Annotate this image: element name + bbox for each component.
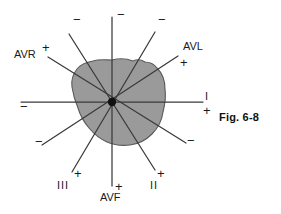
lead-label-i: I	[205, 91, 209, 102]
lead-avl-positive-sign: +	[180, 56, 188, 69]
figure-caption: Fig. 6-8	[219, 111, 259, 123]
lead-avr-negative-sign: −	[187, 134, 195, 147]
hexaxial-diagram	[0, 0, 281, 214]
lead-ii-positive-sign: +	[157, 167, 165, 180]
lead-i-negative-sign: −	[20, 100, 28, 113]
center-point	[108, 98, 116, 106]
hexaxial-reference-figure: I + − AVF + − II + − III + − AVR + − AVL…	[0, 0, 281, 214]
lead-avr-positive-sign: +	[42, 41, 50, 54]
lead-avf-negative-sign: −	[117, 8, 125, 21]
lead-i-positive-sign: +	[203, 104, 211, 117]
lead-label-ii: II	[150, 180, 158, 191]
lead-avl-negative-sign: −	[35, 135, 43, 148]
lead-label-iii: III	[57, 180, 69, 191]
lead-avf-positive-sign: +	[115, 180, 123, 193]
lead-label-avl: AVL	[183, 41, 203, 52]
lead-iii-positive-sign: +	[74, 167, 82, 180]
lead-iii-negative-sign: −	[158, 13, 166, 26]
lead-label-avr: AVR	[14, 49, 36, 60]
lead-ii-negative-sign: −	[73, 13, 81, 26]
